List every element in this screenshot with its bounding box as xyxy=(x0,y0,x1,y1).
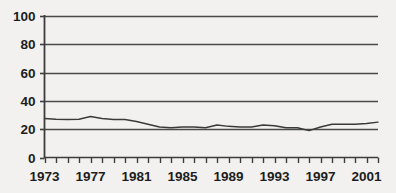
chart-background xyxy=(0,0,396,193)
y-tick-label-100: 100 xyxy=(13,9,36,24)
x-tick-label-1981: 1981 xyxy=(121,169,152,184)
line-chart: 020406080100 197319771981198519891993199… xyxy=(0,0,396,193)
x-tick-label-1993: 1993 xyxy=(259,169,290,184)
y-tick-label-80: 80 xyxy=(20,37,35,52)
y-tick-label-40: 40 xyxy=(20,94,35,109)
x-tick-label-1973: 1973 xyxy=(29,169,60,184)
x-tick-label-2001: 2001 xyxy=(351,169,382,184)
y-tick-label-0: 0 xyxy=(28,151,36,166)
y-tick-label-60: 60 xyxy=(20,66,35,81)
x-tick-label-1997: 1997 xyxy=(305,169,335,184)
chart-canvas: 020406080100 197319771981198519891993199… xyxy=(0,0,396,193)
x-tick-label-1977: 1977 xyxy=(75,169,105,184)
x-tick-label-1985: 1985 xyxy=(167,169,198,184)
x-tick-label-1989: 1989 xyxy=(213,169,243,184)
y-tick-label-20: 20 xyxy=(20,122,35,137)
